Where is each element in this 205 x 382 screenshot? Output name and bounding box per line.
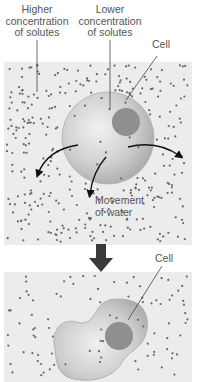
label-lower-line3: of solutes (76, 27, 144, 39)
label-movement-line1: Movement (95, 195, 144, 207)
label-higher-concentration: Higher concentration of solutes (4, 4, 70, 39)
label-cell-bottom: Cell (155, 253, 173, 265)
osmosis-diagram (0, 0, 205, 382)
nucleus-before (112, 108, 140, 136)
label-movement-line2: of water (95, 207, 144, 219)
nucleus-after (105, 322, 133, 350)
label-lower-line1: Lower (76, 4, 144, 16)
transition-arrow (89, 244, 113, 272)
label-movement-of-water: Movement of water (95, 195, 144, 218)
cell-before (62, 92, 154, 184)
label-higher-line3: of solutes (4, 27, 70, 39)
label-lower-concentration: Lower concentration of solutes (76, 4, 144, 39)
label-cell-top: Cell (152, 39, 170, 51)
label-higher-line1: Higher (4, 4, 70, 16)
